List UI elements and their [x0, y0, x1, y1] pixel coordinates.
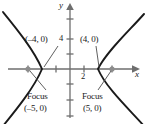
- y-axis-arrow: [66, 3, 74, 10]
- vertex-label-left: (–4, 0): [25, 35, 48, 44]
- focus-marker-left: [25, 66, 30, 71]
- vertex-label-right: (4, 0): [80, 35, 98, 44]
- leader-vertex-right: [96, 46, 99, 67]
- x-tick-label-2: 2: [81, 72, 85, 81]
- focus-label-right-title: Focus: [82, 92, 103, 101]
- focus-label-left-title: Focus: [27, 92, 48, 101]
- y-axis-label: y: [59, 1, 63, 10]
- leader-vertex-left: [44, 46, 58, 67]
- focus-label-left-coord: (–5, 0): [24, 104, 47, 113]
- focus-marker-right: [109, 66, 114, 71]
- y-tick-label-4: 4: [59, 34, 63, 43]
- focus-label-right-coord: (5, 0): [83, 104, 101, 113]
- hyperbola-figure: y x 4 2 (–4, 0) (4, 0) Focus (–5, 0) Foc…: [0, 0, 147, 124]
- graph-canvas: [0, 0, 147, 124]
- x-axis-label: x: [135, 70, 139, 79]
